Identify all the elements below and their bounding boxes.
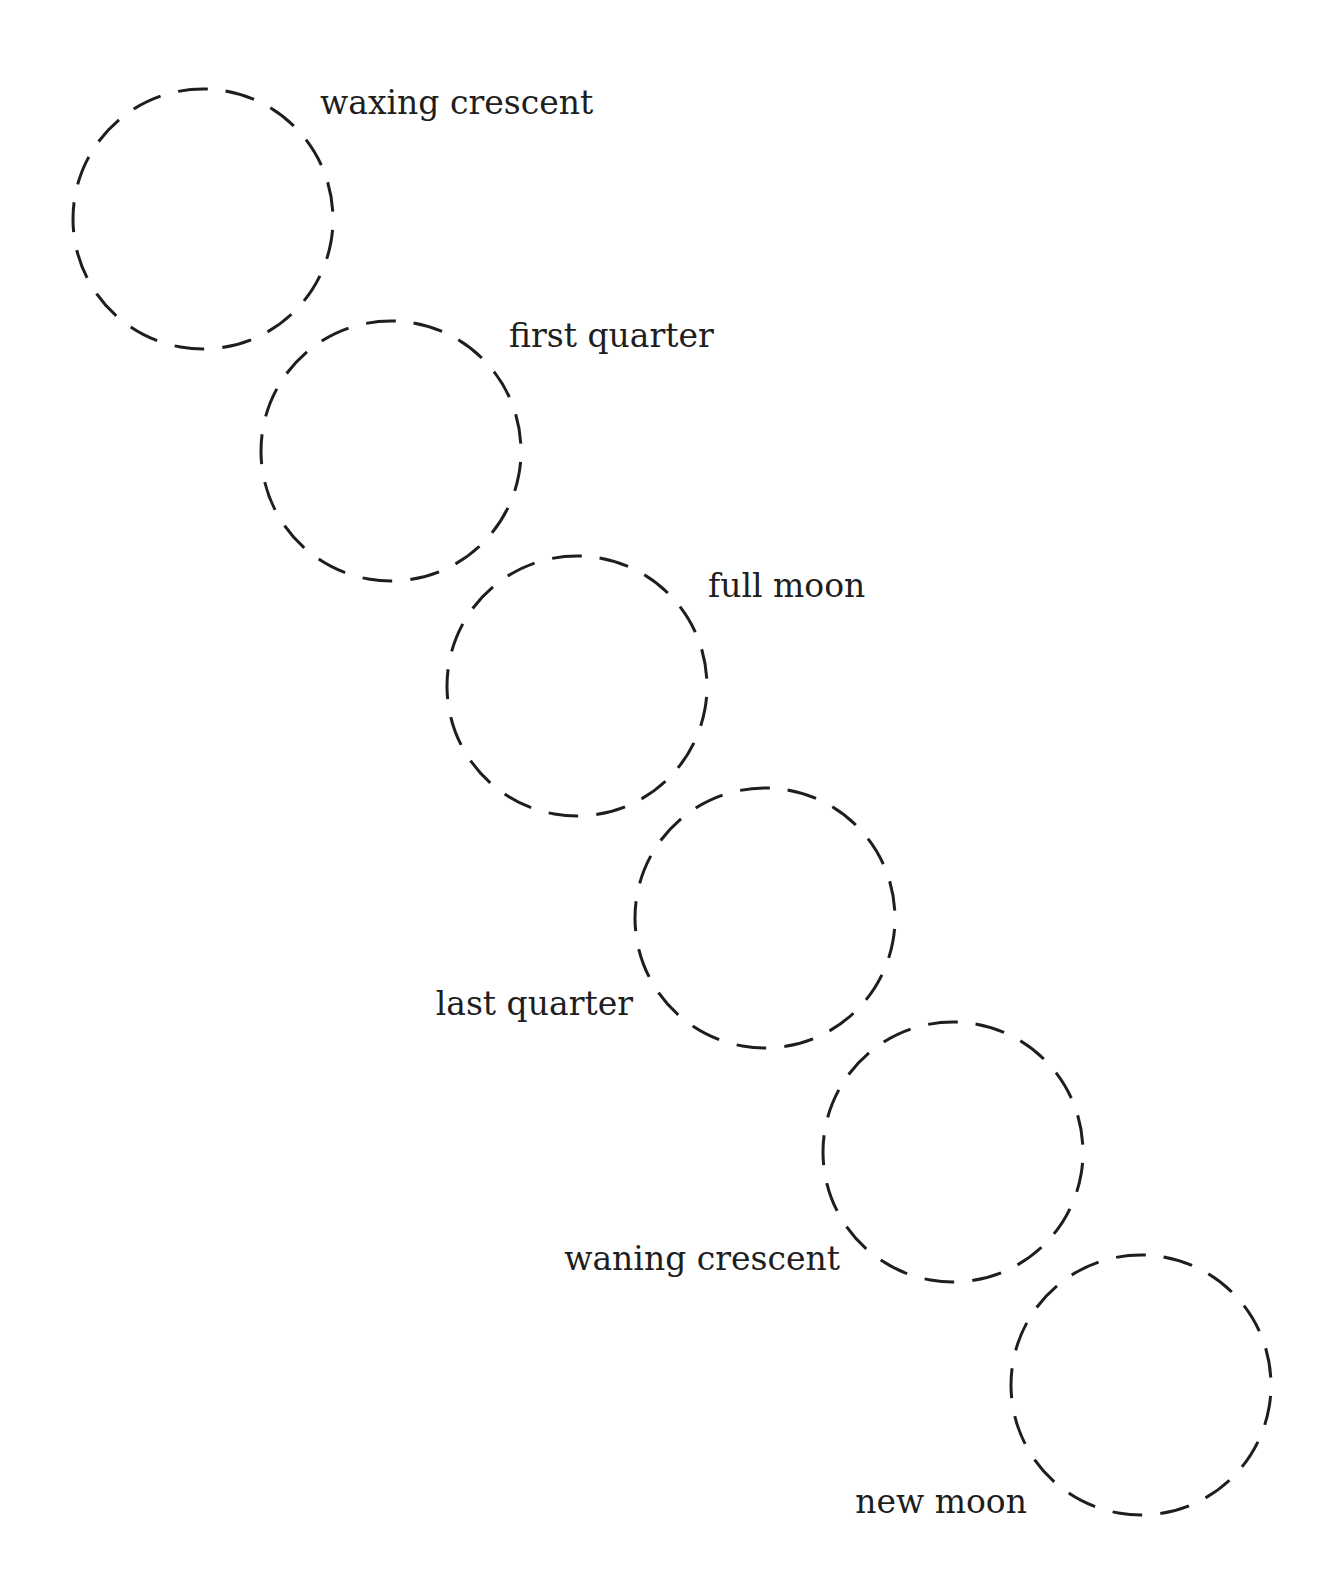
phase-label: new moon	[855, 1482, 1027, 1521]
phase-last-quarter: last quarter	[436, 767, 916, 1068]
diagram-canvas: waxing crescent first quarter full moon …	[0, 0, 1337, 1572]
phase-first-quarter: first quarter	[240, 300, 714, 601]
moon-phase-diagram: waxing crescent first quarter full moon …	[0, 0, 1337, 1572]
phase-label: full moon	[708, 566, 865, 605]
phase-label: waning crescent	[564, 1239, 840, 1278]
moon-outline-icon	[614, 767, 915, 1068]
moon-outline-icon	[240, 300, 541, 601]
phase-label: first quarter	[509, 316, 714, 355]
phase-new-moon: new moon	[855, 1234, 1291, 1535]
moon-outline-icon	[990, 1234, 1291, 1535]
moon-outline-icon	[802, 1001, 1103, 1302]
phase-waning-crescent: waning crescent	[564, 1001, 1103, 1302]
moon-outline-icon	[52, 68, 353, 369]
phase-label: waxing crescent	[320, 83, 593, 122]
phase-label: last quarter	[436, 984, 634, 1023]
moon-outline-icon	[426, 535, 727, 836]
